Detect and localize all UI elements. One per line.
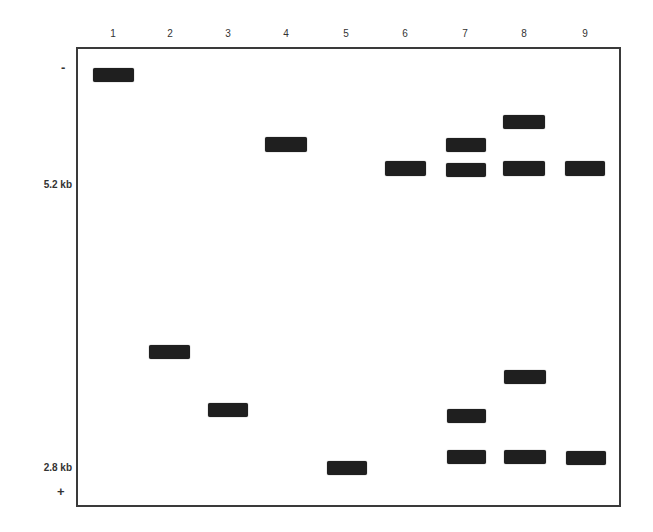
band-lane-2 xyxy=(149,345,190,359)
lane-label-1: 1 xyxy=(103,28,123,39)
band-lane-6 xyxy=(385,161,426,176)
band-lane-7 xyxy=(446,163,486,177)
lane-label-3: 3 xyxy=(218,28,238,39)
band-lane-5 xyxy=(327,461,367,475)
lane-label-4: 4 xyxy=(276,28,296,39)
lane-label-7: 7 xyxy=(455,28,475,39)
lane-label-8: 8 xyxy=(514,28,534,39)
negative-pole-label: - xyxy=(61,60,65,75)
band-lane-7 xyxy=(446,138,486,152)
band-lane-8 xyxy=(503,115,545,129)
band-lane-8 xyxy=(503,161,545,176)
size-marker-5-2kb: 5.2 kb xyxy=(26,179,72,190)
band-lane-8 xyxy=(504,450,546,464)
band-lane-7 xyxy=(447,450,486,464)
lane-label-2: 2 xyxy=(160,28,180,39)
positive-pole-label: + xyxy=(57,484,65,499)
lane-label-6: 6 xyxy=(395,28,415,39)
band-lane-9 xyxy=(566,451,606,465)
band-lane-3 xyxy=(208,403,248,417)
lane-label-5: 5 xyxy=(336,28,356,39)
band-lane-8 xyxy=(504,370,546,384)
band-lane-1 xyxy=(93,68,134,82)
band-lane-7 xyxy=(447,409,486,423)
size-marker-2-8kb: 2.8 kb xyxy=(26,462,72,473)
band-lane-4 xyxy=(265,137,307,152)
lane-label-9: 9 xyxy=(575,28,595,39)
band-lane-9 xyxy=(565,161,605,176)
